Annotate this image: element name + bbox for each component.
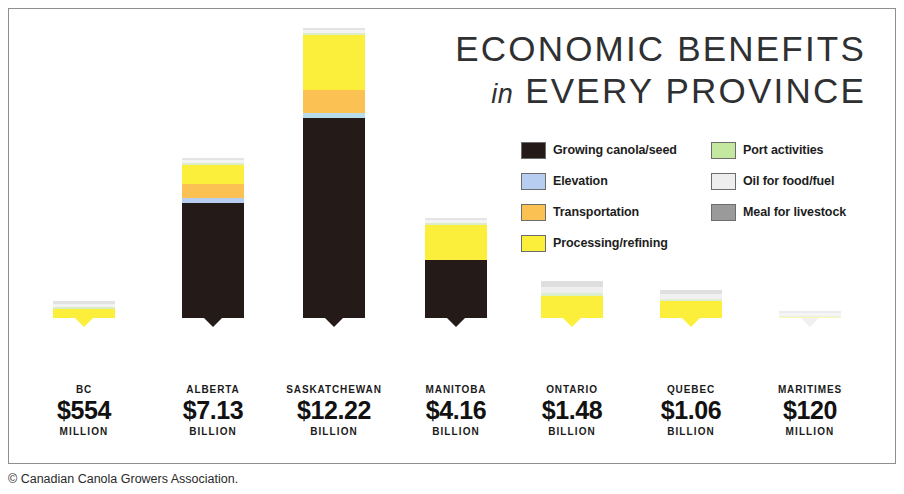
- category-label-group: ALBERTA$7.13BILLION: [153, 383, 273, 438]
- bar-group[interactable]: [425, 218, 487, 318]
- bar-segment: [425, 225, 487, 260]
- bar-pointer-icon: [325, 318, 343, 327]
- province-value: $7.13: [153, 396, 273, 425]
- bar-stack: [660, 290, 722, 318]
- bar-pointer-icon: [447, 318, 465, 327]
- bar-segment: [425, 260, 487, 318]
- province-name: ONTARIO: [512, 383, 632, 396]
- category-label-group: MANITOBA$4.16BILLION: [396, 383, 516, 438]
- bar-stack: [182, 158, 244, 318]
- category-label-group: BC$554MILLION: [24, 383, 144, 438]
- province-value: $4.16: [396, 396, 516, 425]
- bar-group[interactable]: [660, 290, 722, 318]
- province-value: $1.06: [631, 396, 751, 425]
- bar-stack: [779, 311, 841, 318]
- bar-pointer-icon: [75, 318, 93, 327]
- province-unit: BILLION: [153, 425, 273, 438]
- province-unit: MILLION: [24, 425, 144, 438]
- category-labels-row: BC$554MILLIONALBERTA$7.13BILLIONSASKATCH…: [8, 383, 896, 463]
- category-label-group: ONTARIO$1.48BILLION: [512, 383, 632, 438]
- bar-stack: [541, 281, 603, 318]
- infographic-root: ECONOMIC BENEFITS in EVERY PROVINCE Grow…: [0, 0, 904, 494]
- bar-pointer-icon: [204, 318, 222, 327]
- bar-segment: [541, 296, 603, 318]
- bar-pointer-icon: [801, 318, 819, 327]
- bar-segment: [303, 35, 365, 90]
- province-name: ALBERTA: [153, 383, 273, 396]
- province-name: MANITOBA: [396, 383, 516, 396]
- province-unit: BILLION: [396, 425, 516, 438]
- bar-segment: [182, 184, 244, 198]
- province-value: $12.22: [274, 396, 394, 425]
- bar-stack: [53, 301, 115, 318]
- bar-segment: [660, 301, 722, 318]
- category-label-group: SASKATCHEWAN$12.22BILLION: [274, 383, 394, 438]
- province-value: $554: [24, 396, 144, 425]
- bar-segment: [182, 203, 244, 318]
- category-label-group: MARITIMES$120MILLION: [750, 383, 870, 438]
- province-name: BC: [24, 383, 144, 396]
- province-unit: BILLION: [512, 425, 632, 438]
- province-unit: MILLION: [750, 425, 870, 438]
- bar-segment: [303, 90, 365, 113]
- bar-stack: [303, 28, 365, 318]
- copyright-caption: © Canadian Canola Growers Association.: [8, 472, 238, 486]
- bar-pointer-icon: [682, 318, 700, 327]
- bar-pointer-icon: [563, 318, 581, 327]
- bar-group[interactable]: [303, 28, 365, 318]
- bar-segment: [182, 165, 244, 184]
- bar-group[interactable]: [182, 158, 244, 318]
- bar-segment: [53, 309, 115, 318]
- category-label-group: QUEBEC$1.06BILLION: [631, 383, 751, 438]
- province-value: $120: [750, 396, 870, 425]
- bar-segment: [303, 118, 365, 318]
- province-value: $1.48: [512, 396, 632, 425]
- bar-group[interactable]: [541, 281, 603, 318]
- province-name: SASKATCHEWAN: [274, 383, 394, 396]
- province-name: MARITIMES: [750, 383, 870, 396]
- bar-stack: [425, 218, 487, 318]
- province-unit: BILLION: [274, 425, 394, 438]
- bar-group[interactable]: [53, 301, 115, 318]
- province-name: QUEBEC: [631, 383, 751, 396]
- province-unit: BILLION: [631, 425, 751, 438]
- bar-group[interactable]: [779, 311, 841, 318]
